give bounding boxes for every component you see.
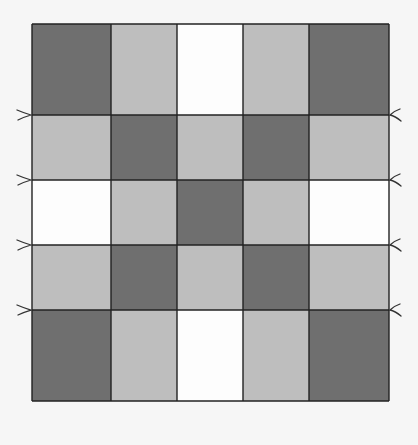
seam-arrow-icon: [17, 110, 31, 120]
grid-cell-r2-c2: [177, 180, 243, 245]
seam-arrow-icon: [17, 240, 31, 250]
grid-cell-r1-c3: [243, 115, 309, 180]
grid-cell-r4-c0: [32, 310, 111, 401]
left-seam-markers: [17, 110, 31, 315]
grid-cell-r1-c1: [111, 115, 177, 180]
grid-cells: [32, 24, 389, 401]
grid-cell-r0-c1: [111, 24, 177, 115]
quilt-diagram: [0, 0, 418, 445]
grid-cell-r3-c2: [177, 245, 243, 310]
grid-cell-r3-c0: [32, 245, 111, 310]
grid-cell-r4-c1: [111, 310, 177, 401]
grid-cell-r3-c4: [309, 245, 389, 310]
grid-cell-r1-c0: [32, 115, 111, 180]
right-seam-markers: [390, 109, 401, 316]
grid-cell-r0-c2: [177, 24, 243, 115]
grid-cell-r4-c2: [177, 310, 243, 401]
seam-arrow-icon: [390, 109, 401, 121]
grid-cell-r1-c4: [309, 115, 389, 180]
grid-cell-r2-c3: [243, 180, 309, 245]
grid-cell-r3-c1: [111, 245, 177, 310]
grid-cell-r2-c4: [309, 180, 389, 245]
grid-cell-r1-c2: [177, 115, 243, 180]
seam-arrow-icon: [390, 304, 401, 316]
grid-cell-r0-c4: [309, 24, 389, 115]
seam-arrow-icon: [17, 305, 31, 315]
grid-cell-r3-c3: [243, 245, 309, 310]
seam-arrow-icon: [390, 239, 401, 251]
grid-cell-r4-c4: [309, 310, 389, 401]
seam-arrow-icon: [390, 174, 401, 186]
grid-cell-r2-c1: [111, 180, 177, 245]
grid-cell-r0-c3: [243, 24, 309, 115]
grid-cell-r0-c0: [32, 24, 111, 115]
seam-arrow-icon: [17, 175, 31, 185]
grid-cell-r2-c0: [32, 180, 111, 245]
grid-cell-r4-c3: [243, 310, 309, 401]
